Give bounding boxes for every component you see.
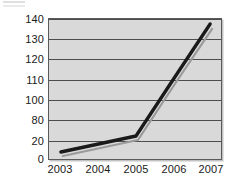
y-tick-label: 130	[10, 34, 44, 45]
series-svg	[49, 19, 221, 159]
y-tick-label: 20	[10, 136, 44, 147]
x-tick-label: 2004	[78, 163, 118, 175]
x-tick-label: 2003	[40, 163, 80, 175]
x-tick-label: 2005	[116, 163, 156, 175]
plot-area	[48, 18, 222, 160]
y-tick-label: 80	[10, 115, 44, 126]
series-2-line	[63, 29, 212, 156]
y-axis: 140 130 120 110 100 80 20 0	[8, 0, 44, 191]
y-tick-label: 120	[10, 54, 44, 65]
y-tick-label: 140	[10, 14, 44, 25]
x-axis: 2003 2004 2005 2006 2007	[48, 163, 222, 181]
line-chart: 140 130 120 110 100 80 20 0 2003 2004	[0, 0, 237, 191]
series-layer	[49, 19, 221, 159]
x-tick-label: 2007	[191, 163, 231, 175]
series-1-line	[61, 24, 210, 152]
y-tick-label: 0	[10, 154, 44, 165]
x-tick-label: 2006	[154, 163, 194, 175]
y-tick-label: 110	[10, 75, 44, 86]
y-tick-label: 100	[10, 95, 44, 106]
